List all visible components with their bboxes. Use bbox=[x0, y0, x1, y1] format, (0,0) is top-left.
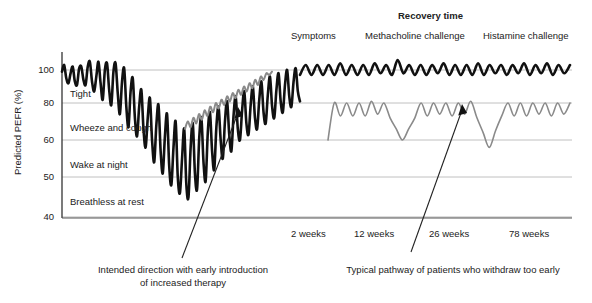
zone-label-tight: Tight bbox=[70, 88, 91, 99]
x-tick-label-2-weeks: 2 weeks bbox=[291, 228, 326, 239]
zone-label-breathless-at-rest: Breathless at rest bbox=[70, 196, 144, 207]
y-axis-title: Predicted PEFR (%) bbox=[12, 89, 23, 175]
annotation-intended-direction-line1: Intended direction with early introducti… bbox=[58, 263, 308, 276]
header-recovery-time: Recovery time bbox=[398, 10, 463, 21]
header-histamine-challenge: Histamine challenge bbox=[483, 30, 569, 41]
peak-flow-chart-svg bbox=[0, 0, 592, 303]
header-methacholine-challenge: Methacholine challenge bbox=[365, 30, 465, 41]
annotation-typical-pathway: Typical pathway of patients who withdraw… bbox=[327, 263, 579, 276]
annotation-typical-pathway-line1: Typical pathway of patients who withdraw… bbox=[327, 263, 579, 276]
y-tick-label-50: 50 bbox=[28, 171, 54, 182]
y-tick-label-40: 40 bbox=[28, 211, 54, 222]
x-tick-label-78-weeks: 78 weeks bbox=[509, 228, 549, 239]
gridlines-group bbox=[62, 70, 572, 217]
x-tick-label-26-weeks: 26 weeks bbox=[429, 228, 469, 239]
y-tick-label-80: 80 bbox=[28, 97, 54, 108]
annotation-intended-direction-line2: of increased therapy bbox=[58, 276, 308, 289]
series-line-sustained-control bbox=[300, 60, 570, 75]
header-symptoms: Symptoms bbox=[291, 30, 336, 41]
series-line-withdraw-early bbox=[328, 101, 570, 147]
x-tick-label-12-weeks: 12 weeks bbox=[354, 228, 394, 239]
y-tick-label-100: 100 bbox=[28, 64, 54, 75]
y-tick-label-60: 60 bbox=[28, 134, 54, 145]
annotation-intended-direction: Intended direction with early introducti… bbox=[58, 263, 308, 289]
chart-figure: Recovery time Symptoms Methacholine chal… bbox=[0, 0, 592, 303]
zone-label-wheeze-and-cough: Wheeze and cough bbox=[70, 122, 152, 133]
zone-label-wake-at-night: Wake at night bbox=[70, 159, 128, 170]
